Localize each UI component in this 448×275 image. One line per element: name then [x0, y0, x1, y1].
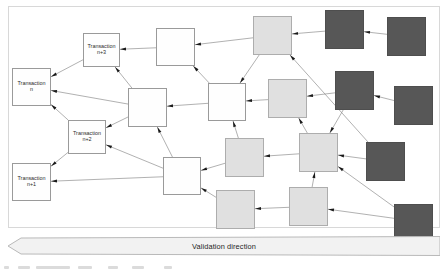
caption-fragment-mark — [36, 266, 70, 269]
caption-fragment — [4, 264, 244, 271]
node-label-line: n+1 — [27, 182, 36, 188]
caption-fragment-mark — [4, 266, 9, 269]
transaction-node — [208, 83, 246, 121]
transaction-node-labeled: Transactionn — [12, 68, 51, 106]
diagram-canvas: TransactionnTransactionn+3Transactionn+2… — [0, 0, 448, 275]
node-label-line: n+2 — [82, 137, 91, 143]
caption-fragment-mark — [108, 266, 118, 269]
caption-fragment-mark — [132, 266, 144, 269]
transaction-node — [387, 17, 426, 56]
transaction-node — [394, 86, 433, 125]
caption-fragment-mark — [78, 266, 92, 269]
transaction-node — [128, 88, 167, 127]
transaction-node — [335, 71, 374, 110]
transaction-node — [216, 190, 255, 229]
transaction-node-labeled: Transactionn+1 — [12, 163, 51, 201]
transaction-node — [366, 142, 405, 181]
transaction-node — [325, 10, 364, 49]
transaction-node-labeled: Transactionn+2 — [68, 120, 106, 154]
transaction-node — [253, 16, 292, 55]
caption-fragment-mark — [18, 266, 30, 269]
caption-fragment-mark — [164, 266, 172, 269]
transaction-node — [289, 187, 328, 226]
transaction-node — [299, 133, 338, 172]
node-label-line: n — [30, 87, 33, 93]
transaction-node-labeled: Transactionn+3 — [83, 33, 120, 67]
transaction-node — [268, 79, 307, 118]
transaction-node — [394, 204, 433, 238]
node-label-line: n+3 — [97, 50, 106, 56]
transaction-node — [225, 138, 264, 177]
transaction-node — [163, 157, 201, 195]
transaction-node — [156, 28, 195, 66]
validation-direction-label: Validation direction — [8, 236, 440, 256]
